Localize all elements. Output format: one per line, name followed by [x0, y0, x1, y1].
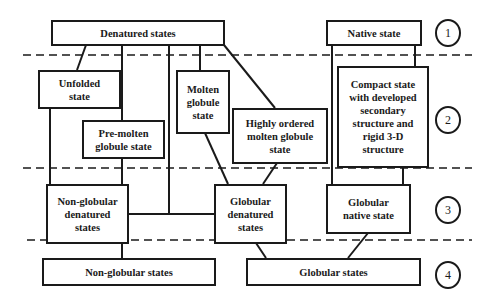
node-non-globular-states: Non-globular states — [42, 258, 216, 286]
node-native-state: Native state — [326, 20, 422, 46]
level-marker-1: 1 — [435, 19, 461, 47]
level-marker-2: 2 — [435, 106, 461, 134]
node-compact-state: Compact state with developed secondary s… — [337, 66, 429, 168]
node-pre-molten-globule-state: Pre-molten globule state — [82, 120, 165, 159]
node-globular-denatured-states: Globular denatured states — [214, 184, 287, 244]
protein-state-diagram: Denatured states Native state Unfolded s… — [0, 0, 498, 304]
node-globular-states: Globular states — [246, 258, 421, 286]
node-globular-native-state: Globular native state — [326, 184, 411, 234]
level-marker-3: 3 — [435, 196, 461, 224]
node-non-globular-denatured-states: Non-globular denatured states — [46, 184, 129, 244]
node-unfolded-state: Unfolded state — [38, 70, 121, 109]
node-highly-ordered-molten-globule-state: Highly ordered molten globule state — [232, 108, 328, 164]
node-denatured-states: Denatured states — [51, 20, 225, 46]
level-marker-4: 4 — [435, 261, 461, 289]
node-molten-globule-state: Molten globule state — [176, 70, 230, 134]
